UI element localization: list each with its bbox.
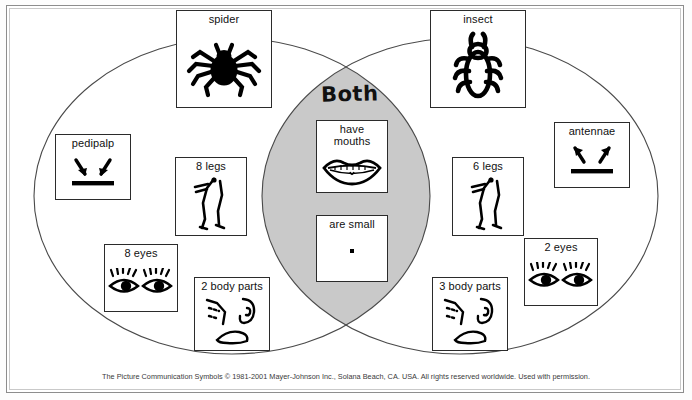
arrows-down-inward-icon [56,150,130,199]
body-parts-icon [195,293,269,350]
legs-icon [176,173,246,235]
card-8-legs-label: 8 legs [196,161,226,173]
card-insect-label: insect [463,14,492,26]
card-3-body-parts[interactable]: 3 body parts [432,277,508,351]
insect-icon [431,26,525,107]
eyes-icon [525,254,597,305]
card-6-legs[interactable]: 6 legs [452,157,524,236]
card-pedipalp-label: pedipalp [72,138,114,150]
card-insect[interactable]: insect [430,10,526,108]
small-dot-icon [317,231,387,281]
card-2-body-parts-label: 2 body parts [201,281,263,293]
venn-diagram-page: Both spider insect [0,0,692,400]
card-3-body-parts-label: 3 body parts [439,281,501,293]
card-8-eyes[interactable]: 8 eyes [104,244,178,312]
venn-shapes [0,0,692,400]
both-title: Both [321,81,379,106]
eyes-icon [105,260,177,311]
card-2-body-parts[interactable]: 2 body parts [194,277,270,351]
card-antennae[interactable]: antennae [554,122,630,188]
card-8-eyes-label: 8 eyes [124,248,157,260]
card-8-legs[interactable]: 8 legs [175,157,247,236]
card-have-mouths[interactable]: have mouths [316,120,388,193]
card-pedipalp[interactable]: pedipalp [55,134,131,200]
card-2-eyes[interactable]: 2 eyes [524,238,598,306]
mouth-icon [317,148,387,192]
card-spider[interactable]: spider [176,10,272,108]
body-parts-icon [433,293,507,350]
card-antennae-label: antennae [569,126,616,138]
legs-icon [453,173,523,235]
copyright-footer: The Picture Communication Symbols © 1981… [0,372,692,381]
spider-icon [177,26,271,107]
card-spider-label: spider [209,14,240,26]
card-2-eyes-label: 2 eyes [544,242,577,254]
arrows-up-outward-icon [555,138,629,187]
card-are-small-label: are small [329,219,375,231]
card-6-legs-label: 6 legs [473,161,503,173]
card-have-mouths-label: have mouths [334,124,371,148]
card-are-small[interactable]: are small [316,215,388,282]
